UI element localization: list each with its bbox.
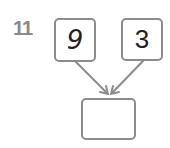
arrow-left-line [76,62,107,93]
answer-box[interactable] [81,98,136,140]
arrow-right-line [112,61,143,93]
